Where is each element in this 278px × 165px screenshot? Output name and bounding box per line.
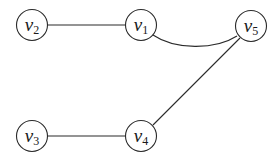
graph-diagram: v1 v2 v3 v4 v5	[0, 0, 278, 165]
node-v4: v4	[126, 121, 157, 152]
node-v1: v1	[126, 10, 157, 41]
node-v5: v5	[236, 11, 267, 42]
edge-v4-v5	[153, 38, 240, 125]
edge-v1-v5	[153, 35, 237, 46]
node-v2: v2	[17, 10, 48, 41]
node-v3: v3	[17, 121, 48, 152]
